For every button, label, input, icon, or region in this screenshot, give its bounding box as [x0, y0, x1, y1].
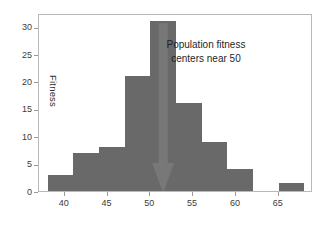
annotation-line-1: Population fitness — [136, 38, 276, 52]
x-tick-mark — [235, 192, 236, 196]
x-axis: 404550556065 — [38, 192, 312, 222]
y-tick-label: 15 — [6, 105, 32, 114]
x-tick-mark — [278, 192, 279, 196]
y-tick-label: 20 — [6, 78, 32, 87]
x-tick-mark — [107, 192, 108, 196]
x-tick-mark — [64, 192, 65, 196]
y-tick-label: 30 — [6, 23, 32, 32]
y-tick-label: 10 — [6, 133, 32, 142]
x-tick-label: 40 — [49, 199, 79, 208]
x-tick-label: 55 — [177, 199, 207, 208]
annotation-population-fitness: Population fitness centers near 50 — [136, 38, 276, 66]
y-tick-label: 0 — [6, 188, 32, 197]
y-tick-label: 25 — [6, 51, 32, 60]
x-tick-label: 65 — [263, 199, 293, 208]
x-tick-label: 50 — [134, 199, 164, 208]
annotation-line-2: centers near 50 — [136, 52, 276, 66]
x-tick-mark — [192, 192, 193, 196]
histogram-figure: 051015202530 Fitness Population fitness … — [0, 0, 333, 229]
x-tick-mark — [149, 192, 150, 196]
y-tick-label: 5 — [6, 160, 32, 169]
x-tick-label: 60 — [220, 199, 250, 208]
plot-area: Fitness Population fitness centers near … — [38, 14, 312, 192]
y-axis: 051015202530 — [0, 14, 38, 192]
x-tick-label: 45 — [92, 199, 122, 208]
